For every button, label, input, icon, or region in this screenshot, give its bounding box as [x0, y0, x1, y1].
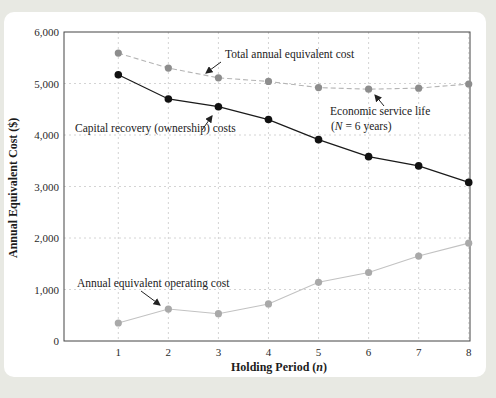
x-tick-label: 1	[116, 346, 122, 358]
economic-service-life-label-line2: (N = 6 years)	[331, 120, 392, 133]
x-axis-title-post: )	[323, 360, 327, 374]
operating-cost-arrow	[141, 291, 160, 305]
x-tick-label: 4	[266, 346, 272, 358]
series-0-point-4	[265, 300, 272, 307]
series-2-point-8	[465, 179, 473, 187]
series-0-point-3	[215, 310, 222, 317]
series-1-point-5	[315, 84, 322, 91]
series-1-point-2	[165, 64, 172, 71]
x-tick-label: 3	[216, 346, 222, 358]
series-0-point-8	[465, 240, 472, 247]
series-1-point-8	[465, 80, 472, 87]
series-2-point-2	[165, 95, 173, 103]
economic-service-life-label-line1: Economic service life	[330, 105, 430, 117]
y-axis-title: Annual Equivalent Cost ($)	[6, 118, 20, 258]
series-1-point-6	[365, 86, 372, 93]
y-tick-label: 3,000	[34, 181, 59, 193]
y-tick-label: 1,000	[34, 284, 59, 296]
y-tick-label: 0	[54, 335, 60, 347]
axis-tick-labels: 01,0002,0003,0004,0005,0006,00012345678	[34, 26, 472, 358]
capital-recovery-label: Capital recovery (ownership) costs	[75, 122, 236, 135]
total-cost-label: Total annual equivalent cost	[225, 48, 355, 61]
x-tick-label: 8	[466, 346, 472, 358]
y-tick-label: 6,000	[34, 26, 59, 38]
x-axis-title-pre: Holding Period (	[231, 360, 316, 374]
y-tick-label: 5,000	[34, 78, 59, 90]
x-axis-title: Holding Period (n)	[231, 360, 327, 374]
operating-cost-label: Annual equivalent operating cost	[77, 277, 230, 290]
chart-figure: 01,0002,0003,0004,0005,0006,00012345678 …	[0, 0, 496, 398]
x-tick-label: 5	[316, 346, 322, 358]
series-0-point-2	[165, 305, 172, 312]
series-0-point-7	[415, 252, 422, 259]
series-2-point-1	[115, 71, 123, 79]
series-1-point-3	[215, 74, 222, 81]
series-1-point-1	[115, 50, 122, 57]
series-2-point-3	[215, 103, 223, 111]
series-1-point-7	[415, 85, 422, 92]
series-2-point-5	[315, 136, 323, 144]
series-2-point-7	[415, 162, 423, 170]
series-0-point-6	[365, 269, 372, 276]
series-2-point-6	[365, 153, 373, 161]
aec-line-chart: 01,0002,0003,0004,0005,0006,00012345678 …	[0, 0, 496, 398]
y-tick-label: 2,000	[34, 232, 59, 244]
x-tick-label: 2	[166, 346, 172, 358]
y-tick-label: 4,000	[34, 129, 59, 141]
series-0-point-1	[115, 319, 122, 326]
x-tick-label: 6	[366, 346, 372, 358]
x-tick-label: 7	[416, 346, 422, 358]
series-2-point-4	[265, 116, 273, 124]
series-0-point-5	[315, 279, 322, 286]
series-1-point-4	[265, 78, 272, 85]
